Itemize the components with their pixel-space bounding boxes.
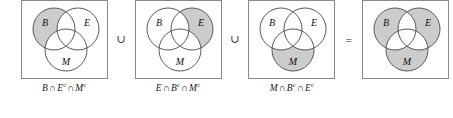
venn-svg-2: B E M — [136, 1, 221, 78]
label-m: M — [61, 56, 71, 67]
venn-diagram-3: B E M — [248, 0, 335, 79]
caption-3-set-1: M — [270, 83, 278, 93]
venn-panel-4: B E M — [358, 0, 453, 84]
label-e: E — [310, 17, 317, 28]
caption-1-op-1: ∩ — [48, 83, 57, 93]
caption-3-op-1: ∩ — [278, 83, 287, 93]
caption-1-comp-3: c — [83, 81, 86, 88]
caption-3-comp-3: c — [311, 81, 314, 88]
caption-2-op-2: ∩ — [180, 83, 189, 93]
caption-3: M∩Bc∩Ec — [270, 84, 314, 94]
label-e: E — [197, 17, 204, 28]
venn-diagram-1: B E M — [21, 0, 108, 79]
caption-1-op-2: ∩ — [66, 83, 75, 93]
label-e: E — [424, 17, 431, 28]
caption-2: E∩Bc∩Mc — [156, 84, 200, 94]
venn-diagram-4: B E M — [362, 0, 449, 79]
label-b: B — [383, 17, 389, 28]
venn-identity-figure: B E M B∩Ec∩Mc ∪ — [0, 0, 453, 118]
caption-2-comp-3: c — [197, 81, 200, 88]
venn-svg-4: B E M — [363, 1, 448, 78]
venn-svg-3: B E M — [249, 1, 334, 78]
label-b: B — [42, 17, 48, 28]
label-m: M — [288, 56, 298, 67]
label-m: M — [174, 56, 184, 67]
venn-svg-1: B E M — [22, 1, 107, 78]
label-b: B — [269, 17, 275, 28]
connector-union-2: ∪ — [225, 0, 244, 79]
label-b: B — [156, 17, 162, 28]
connector-equals: = — [339, 0, 358, 79]
label-m: M — [402, 56, 412, 67]
venn-panel-1: B E M B∩Ec∩Mc — [17, 0, 112, 94]
caption-1: B∩Ec∩Mc — [42, 84, 86, 94]
caption-3-op-2: ∩ — [296, 83, 305, 93]
caption-2-set-1: E — [156, 83, 162, 93]
connector-union-1: ∪ — [112, 0, 131, 79]
label-e: E — [83, 17, 90, 28]
venn-panel-3: B E M M∩Bc∩Ec — [245, 0, 340, 94]
venn-panel-2: B E M E∩Bc∩Mc — [131, 0, 226, 94]
caption-2-op-1: ∩ — [162, 83, 171, 93]
venn-diagram-2: B E M — [135, 0, 222, 79]
